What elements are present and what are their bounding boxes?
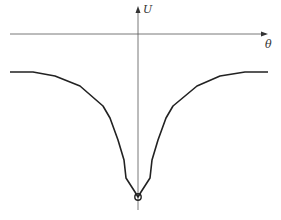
theta-axis-arrow-icon <box>261 32 268 37</box>
potential-curve <box>10 72 268 197</box>
u-axis-label: U <box>143 3 152 16</box>
theta-axis-label: θ <box>265 38 272 51</box>
u-axis-arrow-icon <box>136 6 141 13</box>
potential-diagram <box>0 0 281 220</box>
